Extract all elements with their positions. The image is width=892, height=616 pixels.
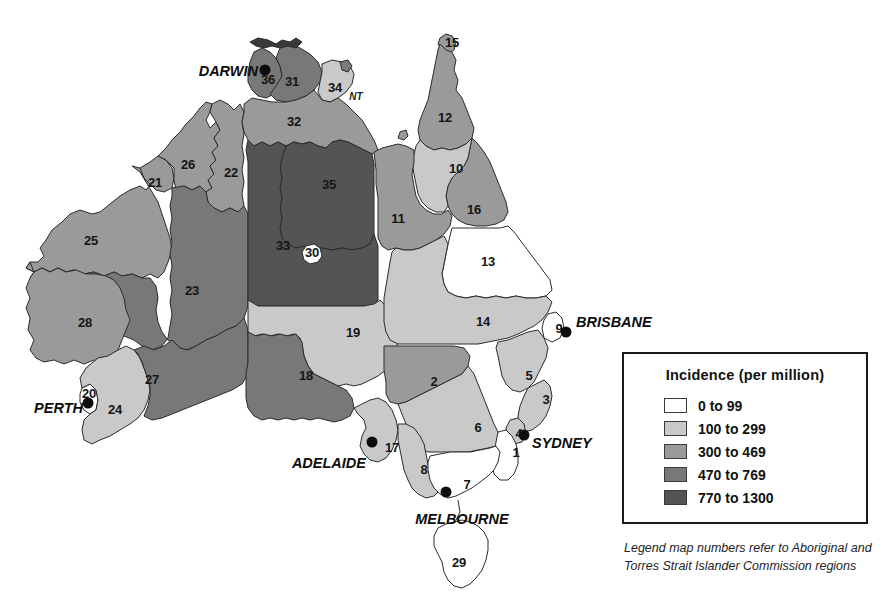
city-label-perth: PERTH xyxy=(34,401,83,416)
region-label-28: 28 xyxy=(78,316,92,329)
region-label-33: 33 xyxy=(276,239,290,252)
region-label-31: 31 xyxy=(285,75,299,88)
city-label-brisbane: BRISBANE xyxy=(576,315,652,330)
region-label-13: 13 xyxy=(481,255,495,268)
legend-swatch-4 xyxy=(664,490,687,505)
city-label-adelaide: ADELAIDE xyxy=(292,456,366,471)
gulf-island-shape xyxy=(398,130,408,140)
city-dot-adelaide xyxy=(367,437,378,448)
region-label-34: 34 xyxy=(328,81,342,94)
region-shape-13[interactable] xyxy=(442,226,552,298)
state-abbrev-nt: NT xyxy=(349,91,362,102)
legend-swatch-2 xyxy=(664,444,687,459)
region-label-11: 11 xyxy=(391,212,404,225)
region-label-6: 6 xyxy=(474,421,481,434)
region-label-16: 16 xyxy=(467,203,481,216)
region-shape-12[interactable] xyxy=(418,44,474,150)
region-label-18: 18 xyxy=(299,369,313,382)
region-label-12: 12 xyxy=(438,111,452,124)
legend-label-0: 0 to 99 xyxy=(698,398,742,414)
legend-row-0[interactable]: 0 to 99 xyxy=(664,394,866,417)
region-label-3: 3 xyxy=(542,393,549,406)
region-shape-35[interactable] xyxy=(280,140,374,250)
legend-label-1: 100 to 299 xyxy=(698,421,766,437)
region-label-30: 30 xyxy=(305,246,319,259)
region-label-29: 29 xyxy=(452,556,466,569)
legend-rows: 0 to 99 100 to 299 300 to 469 470 to 769… xyxy=(664,394,866,509)
city-dot-sydney xyxy=(519,430,530,441)
region-label-21: 21 xyxy=(148,176,162,189)
legend-label-3: 470 to 769 xyxy=(698,467,766,483)
city-label-melbourne: MELBOURNE xyxy=(415,512,508,527)
region-label-5: 5 xyxy=(525,369,532,382)
region-label-15: 15 xyxy=(445,36,459,49)
region-label-19: 19 xyxy=(346,326,360,339)
region-label-2: 2 xyxy=(430,375,437,388)
region-label-7: 7 xyxy=(463,478,470,491)
region-label-22: 22 xyxy=(224,166,238,179)
city-dot-melbourne xyxy=(441,487,452,498)
region-label-27: 27 xyxy=(145,373,159,386)
legend-swatch-0 xyxy=(664,398,687,413)
legend-label-2: 300 to 469 xyxy=(698,444,766,460)
region-label-24: 24 xyxy=(108,403,122,416)
region-label-23: 23 xyxy=(185,284,199,297)
city-dot-perth xyxy=(83,398,94,409)
legend-title: Incidence (per million) xyxy=(624,367,866,383)
map-page: 1 2 3 4 5 6 7 8 9 10 11 12 13 14 15 16 1… xyxy=(0,0,892,616)
region-label-10: 10 xyxy=(449,162,463,175)
legend-box: Incidence (per million) 0 to 99 100 to 2… xyxy=(622,352,868,524)
legend-row-2[interactable]: 300 to 469 xyxy=(664,440,866,463)
region-label-25: 25 xyxy=(84,234,98,247)
legend-row-4[interactable]: 770 to 1300 xyxy=(664,486,866,509)
region-label-8: 8 xyxy=(420,463,427,476)
region-label-14: 14 xyxy=(476,315,490,328)
region-label-32: 32 xyxy=(287,115,301,128)
legend-row-3[interactable]: 470 to 769 xyxy=(664,463,866,486)
legend-row-1[interactable]: 100 to 299 xyxy=(664,417,866,440)
city-label-sydney: SYDNEY xyxy=(532,436,592,451)
region-label-1: 1 xyxy=(512,446,519,459)
region-label-26: 26 xyxy=(181,158,195,171)
legend-note: Legend map numbers refer to Aboriginal a… xyxy=(624,540,874,576)
legend-swatch-1 xyxy=(664,421,687,436)
city-label-darwin: DARWIN xyxy=(199,64,258,79)
city-dot-darwin xyxy=(260,65,271,76)
region-label-35: 35 xyxy=(322,178,336,191)
region-label-17: 17 xyxy=(385,441,399,454)
legend-label-4: 770 to 1300 xyxy=(698,490,774,506)
legend-swatch-3 xyxy=(664,467,687,482)
tiwi-islands-shape xyxy=(250,38,302,48)
city-dot-brisbane xyxy=(561,327,572,338)
